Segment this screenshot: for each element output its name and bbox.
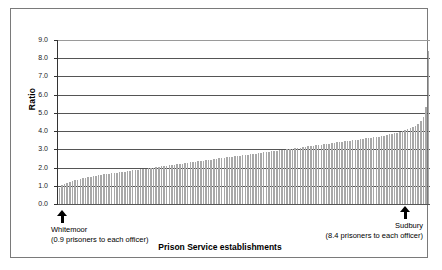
bar [129,171,131,204]
bar [360,139,362,204]
y-axis-tick-label: 9.0 [38,35,48,44]
bar [417,124,419,204]
bar [250,154,252,204]
y-axis-tick-label: 0.0 [38,199,48,208]
y-axis-tick-label: 8.0 [38,53,48,62]
bar [155,167,157,204]
bar [148,168,150,204]
bar [203,161,205,204]
bar [260,153,262,204]
bar [396,133,398,204]
bar [87,177,89,204]
bar [381,136,383,204]
bar [368,138,370,204]
bar [197,161,199,204]
bar [402,131,404,204]
bar [95,176,97,204]
bar [344,141,346,204]
bar [307,146,309,204]
y-axis-tick-label: 5.0 [38,108,48,117]
x-axis-title: Prison Service establishments [11,242,429,252]
bar [234,156,236,204]
bar [179,164,181,204]
bar [263,152,265,204]
bar [74,180,76,204]
bar [166,166,168,204]
bar [404,130,406,204]
bar [326,144,328,204]
bar [239,156,241,204]
bar [281,150,283,204]
bar [245,155,247,204]
bar [224,158,226,204]
bar [208,160,210,204]
bar [221,158,223,204]
bar [158,167,160,204]
bar [216,159,218,204]
bar [140,169,142,204]
bar [98,175,100,204]
bar [132,170,134,204]
y-axis-tick-label: 1.0 [38,181,48,190]
bar [305,147,307,204]
bar [318,145,320,204]
bar [135,170,137,204]
bar [161,166,163,204]
bar [279,150,281,204]
bar [428,51,430,204]
bar [273,151,275,204]
bar [349,141,351,204]
bar [77,180,79,204]
bar [370,138,372,204]
bar [100,175,102,204]
bar [323,144,325,204]
bar [231,157,233,204]
plot-area: 9.08.07.06.05.04.03.02.01.00.0 [58,40,430,204]
y-axis-tick-label: 4.0 [38,126,48,135]
bar [108,174,110,204]
bar [268,152,270,204]
bar [292,149,294,204]
bar [174,165,176,204]
bar [80,179,82,204]
bar [310,146,312,204]
bar [213,159,215,204]
bar [365,138,367,204]
bar [121,172,123,204]
y-axis-title: Ratio [27,69,37,129]
bar [145,169,147,204]
bar [341,142,343,204]
bar [247,155,249,204]
y-axis-tick-label: 2.0 [38,163,48,172]
bar [276,151,278,204]
bar [315,145,317,204]
bar [289,149,291,204]
bar [59,188,61,204]
bar [386,135,388,204]
bar [163,166,165,204]
bar [352,140,354,204]
bar [355,140,357,204]
bar [391,134,393,204]
bar [226,157,228,204]
bar [106,174,108,204]
bar [93,176,95,204]
whitemoor-label: Whitemoor [51,225,148,235]
y-axis-tick-label: 7.0 [38,71,48,80]
bar [407,129,409,204]
chart-frame: Ratio 9.08.07.06.05.04.03.02.01.00.0 Whi… [10,8,428,258]
bar [378,137,380,204]
y-axis-tick-label: 6.0 [38,90,48,99]
bar [171,165,173,204]
bar [119,172,121,204]
bar [362,139,364,204]
bar [61,185,63,204]
bar [114,173,116,204]
bar [399,132,401,204]
bar-series [58,40,430,204]
sudbury-arrow-icon [400,207,410,217]
bar [328,144,330,204]
bar [420,121,422,204]
bar [410,128,412,204]
bar [200,161,202,204]
